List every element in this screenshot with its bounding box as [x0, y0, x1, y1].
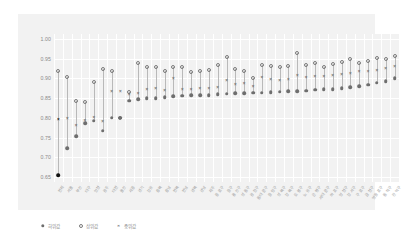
data-point-low [287, 90, 291, 94]
data-point-mid: × [83, 118, 87, 122]
data-point-mid: × [92, 116, 96, 120]
legend-item[interactable]: ×중위값 [116, 223, 136, 229]
data-point-high [313, 61, 317, 65]
y-axis-tick-label: 0.65 [41, 174, 52, 180]
data-point-high [110, 69, 114, 73]
range-stem [297, 53, 298, 91]
data-point-low [127, 99, 131, 103]
data-point-high [74, 99, 78, 103]
x-axis-tick-label: 강원 [144, 184, 154, 194]
data-point-low [269, 90, 273, 94]
data-point-mid: × [100, 120, 104, 124]
data-point-mid: × [339, 73, 343, 77]
data-point-low [57, 173, 61, 177]
data-point-low [322, 88, 326, 92]
data-point-low [154, 96, 158, 100]
data-point-mid: × [392, 64, 396, 68]
data-point-mid: × [118, 90, 122, 94]
data-point-mid: × [330, 73, 334, 77]
data-point-low [74, 135, 78, 139]
data-point-mid: × [145, 88, 149, 92]
data-point-low [136, 98, 140, 102]
data-point-low [65, 146, 69, 150]
x-axis-tick-label: 서울 [65, 184, 75, 194]
legend-marker-filled-circle-icon [40, 224, 45, 229]
x-axis-tick-label: 전남 [180, 184, 190, 194]
data-point-high [163, 69, 167, 73]
data-point-mid: × [286, 77, 290, 81]
x-axis-tick-label: 충북 [153, 184, 163, 194]
data-point-mid: × [313, 75, 317, 79]
data-point-low [366, 83, 370, 87]
legend-label: 상위값 [86, 223, 98, 229]
data-point-mid: × [242, 82, 246, 86]
data-point-mid: × [136, 92, 140, 96]
y-axis-tick-label: 0.75 [41, 135, 52, 141]
plot-area: ××××××××××××××××××××××××××××××××××××××× … [54, 34, 399, 182]
data-point-low [180, 94, 184, 98]
legend-item[interactable]: 상위값 [78, 223, 98, 229]
data-point-low [393, 77, 397, 81]
y-axis-tick-label: 0.70 [41, 154, 52, 160]
x-axis-tick-label: 광주 [100, 184, 110, 194]
data-point-mid: × [56, 118, 60, 122]
data-point-low [216, 92, 220, 96]
x-axis-tick-label: 경남 [197, 184, 207, 194]
range-stem [209, 70, 210, 95]
data-point-mid: × [384, 67, 388, 71]
data-point-low [234, 92, 238, 96]
data-point-high [278, 65, 282, 69]
data-point-high [101, 67, 105, 71]
data-point-high [154, 65, 158, 69]
data-point-high [260, 63, 264, 67]
data-point-high [145, 65, 149, 69]
data-point-low [260, 91, 264, 95]
data-point-low [357, 84, 361, 88]
data-point-mid: × [224, 79, 228, 83]
x-axis-labels: 전체서울부산대구인천광주대전울산세종경기강원충북충남전북전남경북경남제주종로구중… [54, 184, 399, 222]
legend-label: 하위값 [48, 223, 60, 229]
data-point-high [366, 59, 370, 63]
data-point-low [198, 93, 202, 97]
data-point-mid: × [260, 76, 264, 80]
legend-item[interactable]: 하위값 [40, 223, 60, 229]
data-point-low [207, 93, 211, 97]
range-stem [227, 57, 228, 94]
data-point-low [375, 81, 379, 85]
data-point-low [331, 87, 335, 91]
data-point-mid: × [154, 87, 158, 91]
range-stem [76, 101, 77, 136]
data-point-high [225, 55, 229, 59]
x-axis-tick-label: 경북 [189, 184, 199, 194]
data-point-high [83, 100, 87, 104]
data-point-low [189, 94, 193, 98]
data-point-high [92, 80, 96, 84]
range-stem [58, 71, 59, 176]
data-point-high [393, 54, 397, 58]
range-stem [156, 67, 157, 99]
data-point-mid: × [366, 69, 370, 73]
data-point-high [269, 64, 273, 68]
data-point-mid: × [198, 87, 202, 91]
data-point-mid: × [207, 86, 211, 90]
data-point-low [172, 94, 176, 98]
data-point-high [242, 69, 246, 73]
y-axis-tick-label: 0.80 [41, 115, 52, 121]
data-point-low [119, 116, 123, 120]
data-point-high [180, 65, 184, 69]
data-point-mid: × [251, 84, 255, 88]
legend-marker-x-icon: × [116, 224, 121, 229]
data-point-mid: × [171, 77, 175, 81]
data-point-high [375, 56, 379, 60]
data-point-high [286, 64, 290, 68]
data-point-low [313, 88, 317, 92]
y-axis-tick-label: 0.85 [41, 95, 52, 101]
data-point-high [357, 61, 361, 65]
data-point-low [251, 91, 255, 95]
data-point-low [349, 86, 353, 90]
range-stem [67, 77, 68, 148]
data-point-low [163, 95, 167, 99]
data-point-low [278, 90, 282, 94]
data-point-high [251, 76, 255, 80]
